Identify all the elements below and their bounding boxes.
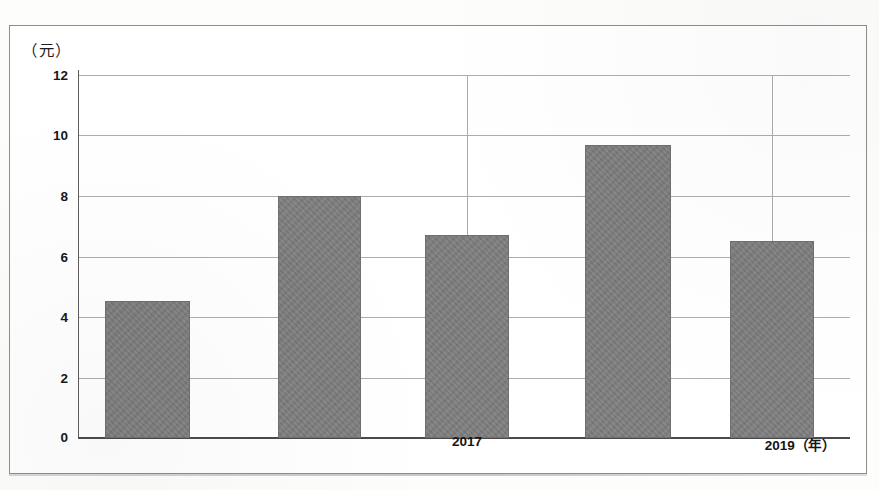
x-axis-unit-label: （年） [795,438,836,453]
y-axis-line [78,70,79,439]
x-tick-label-2017-text: 2017 [452,434,482,449]
x-tick-label-2019-text: 2019 [765,438,795,453]
bar-5-2019 [730,241,814,438]
y-tick-label-2: 2 [22,371,68,386]
x-tick-label-2017: 2017 [452,434,482,449]
chart-page: （元） 12 10 8 6 4 2 0 2017 2019（年） [0,0,879,490]
gridline-12 [78,75,850,76]
gridline-8 [78,196,850,197]
y-tick-label-6: 6 [22,250,68,265]
bar-1 [105,301,190,438]
bar-2 [278,196,361,438]
y-tick-label-10: 10 [22,128,68,143]
y-tick-label-8: 8 [22,189,68,204]
bar-chart-plot: （元） 12 10 8 6 4 2 0 2017 2019（年） [0,0,879,490]
gridline-10 [78,135,850,136]
bar-3-2017 [425,235,509,438]
y-tick-label-12: 12 [22,68,68,83]
y-axis-unit-label: （元） [22,38,72,60]
bar-4 [585,145,671,439]
y-tick-label-4: 4 [22,310,68,325]
x-tick-label-2019: 2019（年） [765,434,836,454]
y-tick-label-0: 0 [22,430,68,445]
